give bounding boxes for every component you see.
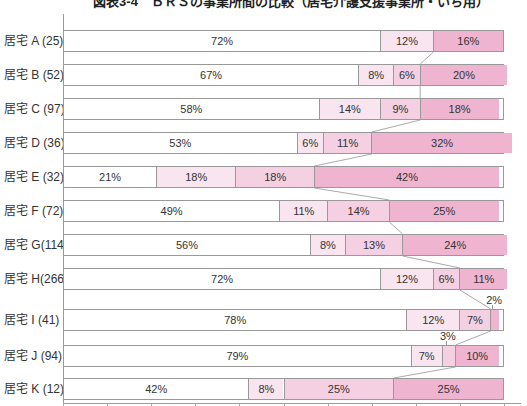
row-label: 居宅 H(266) [4, 271, 62, 287]
outside-value-label: 2% [482, 294, 506, 306]
bar-segment: 7% [411, 346, 442, 366]
x-axis-line [63, 403, 521, 404]
bar-segment: 25% [389, 201, 499, 221]
bar-segment: 8% [358, 65, 393, 85]
outside-value-label: 3% [436, 330, 460, 342]
bar-segment: 12% [406, 310, 459, 330]
connector-line [372, 120, 421, 132]
bar-segment: 79% [64, 346, 411, 366]
bar-segment: 25% [284, 379, 394, 399]
bar-segment: 21% [64, 167, 156, 187]
bar-segment: 18% [420, 99, 499, 119]
bar-segment: 7% [459, 310, 490, 330]
bar-segment: 6% [297, 133, 323, 153]
bar-segment: 42% [314, 167, 498, 187]
bar-row: 72%12%16% [63, 30, 504, 52]
bar-segment: 72% [64, 269, 380, 289]
bar-segment: 10% [455, 346, 499, 366]
bar-segment: 72% [64, 31, 380, 51]
row-label: 居宅 J (94) [4, 348, 62, 364]
bar-row: 78%12%7% [63, 309, 504, 331]
connector-line [314, 188, 389, 200]
bar-segment: 20% [420, 65, 508, 85]
row-label: 居宅 A (25) [4, 33, 62, 49]
bar-segment: 25% [393, 379, 503, 399]
bar-segment: 11% [323, 133, 371, 153]
bar-segment: 58% [64, 99, 319, 119]
bar-segment: 8% [248, 379, 283, 399]
row-label: 居宅 K (12) [4, 381, 62, 397]
bar-segment: 6% [393, 65, 419, 85]
bar-segment: 13% [345, 235, 402, 255]
bar-row: 56%8%13%24% [63, 234, 504, 256]
chart-area: 居宅 A (25)72%12%16%居宅 B (52)67%8%6%20%居宅 … [0, 0, 527, 406]
bar-segment: 6% [433, 269, 459, 289]
row-label: 居宅 G(114) [4, 237, 62, 253]
bar-row: 67%8%6%20% [63, 64, 504, 86]
connector-line [420, 52, 433, 64]
connector-line [403, 256, 460, 268]
bar-segment: 67% [64, 65, 358, 85]
bar-segment: 18% [235, 167, 314, 187]
bar-segment: 11% [279, 201, 327, 221]
row-label: 居宅 D (36) [4, 135, 62, 151]
row-label: 居宅 C (97) [4, 101, 62, 117]
bar-segment [490, 310, 499, 330]
bar-row: 53%6%11%32% [63, 132, 504, 154]
row-label: 居宅 E (32) [4, 169, 62, 185]
bar-segment [442, 346, 455, 366]
row-label: 居宅 F (72) [4, 203, 62, 219]
bar-row: 58%14%9%18% [63, 98, 504, 120]
bar-segment: 11% [459, 269, 507, 289]
bar-row: 79%7%10% [63, 345, 504, 367]
bar-segment: 53% [64, 133, 297, 153]
bar-segment: 32% [371, 133, 511, 153]
bar-segment: 42% [64, 379, 248, 399]
bar-segment: 24% [402, 235, 507, 255]
bar-segment: 16% [433, 31, 503, 51]
connector-line [455, 331, 490, 345]
bar-row: 21%18%18%42% [63, 166, 504, 188]
bar-segment: 12% [380, 31, 433, 51]
row-label: 居宅 I (41) [4, 312, 62, 328]
bar-row: 42%8%25%25% [63, 378, 504, 400]
bar-row: 72%12%6%11% [63, 268, 504, 290]
connector-line [389, 222, 402, 234]
bar-segment: 18% [156, 167, 235, 187]
bar-segment: 49% [64, 201, 279, 221]
row-label: 居宅 B (52) [4, 67, 62, 83]
connector-line [314, 154, 371, 166]
figure: 図表3-4 ＢＲＳの事業所間の比較（居宅介護支援事業所・いち用） 居宅 A (2… [0, 0, 527, 406]
bar-segment: 12% [380, 269, 433, 289]
bar-segment: 8% [310, 235, 345, 255]
bar-segment: 14% [327, 201, 388, 221]
bar-segment: 14% [319, 99, 380, 119]
bar-segment: 56% [64, 235, 310, 255]
bar-segment: 9% [380, 99, 420, 119]
bar-row: 49%11%14%25% [63, 200, 504, 222]
bar-segment: 78% [64, 310, 406, 330]
connector-line [394, 367, 456, 378]
